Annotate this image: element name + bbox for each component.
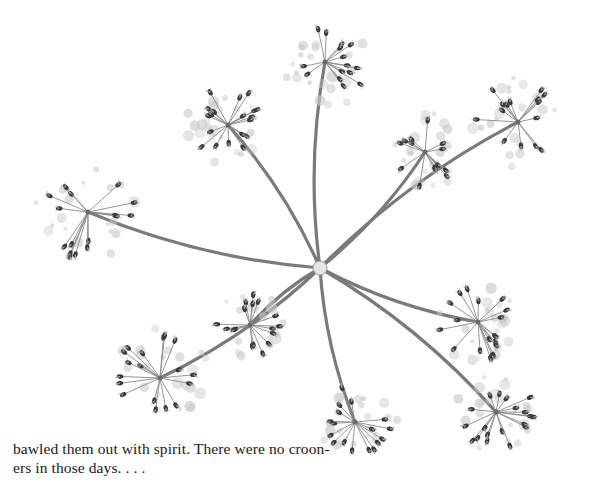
umbellet-bottom-right <box>453 375 538 451</box>
umbellet-left <box>34 166 140 261</box>
ray-stem <box>320 268 496 412</box>
body-text: bawled them out with spirit. There were … <box>13 439 333 477</box>
ray-stem <box>88 212 320 268</box>
umbel-photograph <box>0 0 591 483</box>
umbellet-top-left <box>183 87 262 166</box>
umbellet-upper-right <box>393 110 453 191</box>
text-line-1: bawled them out with spirit. There were … <box>13 439 333 458</box>
text-line-2: ers in those days. . . . <box>13 458 333 477</box>
umbellet-bottom-left <box>115 325 209 415</box>
central-hub <box>313 261 327 275</box>
ray-stem <box>314 62 325 268</box>
book-page: bawled them out with spirit. There were … <box>0 0 591 483</box>
ray-stem <box>320 268 478 322</box>
umbellet-far-right-top <box>467 76 557 170</box>
ray-stem <box>320 122 518 268</box>
umbellets <box>34 25 557 456</box>
umbellet-right-middle <box>435 283 514 365</box>
